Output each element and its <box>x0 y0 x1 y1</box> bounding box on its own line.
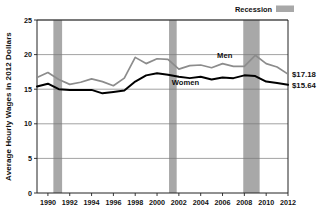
series-label-women: Women <box>172 78 200 87</box>
y-tick-label-10: 10 <box>24 119 32 128</box>
y-axis-title: Average Hourly Wages in 2012 Dollars <box>4 32 13 181</box>
y-tick-label-20: 20 <box>24 50 32 59</box>
series-label-men: Men <box>217 51 233 60</box>
y-tick-label-25: 25 <box>24 16 32 25</box>
x-tick-label-2000: 2000 <box>149 198 165 207</box>
x-tick-label-2002: 2002 <box>171 198 187 207</box>
wages-line-chart: 0510152025199019921994199619982000200220… <box>0 0 327 217</box>
x-tick-label-1990: 1990 <box>40 198 56 207</box>
legend-label-recession: Recession <box>235 5 272 14</box>
x-tick-label-1998: 1998 <box>127 198 143 207</box>
y-tick-label-15: 15 <box>24 85 32 94</box>
x-tick-label-2004: 2004 <box>193 198 209 207</box>
legend-swatch-recession <box>276 6 294 13</box>
end-label-women: $15.64 <box>292 81 317 90</box>
recession-band-2 <box>169 20 177 193</box>
y-tick-label-0: 0 <box>28 189 32 198</box>
x-tick-label-2006: 2006 <box>215 198 231 207</box>
x-tick-label-1994: 1994 <box>84 198 100 207</box>
end-label-men: $17.18 <box>292 70 317 79</box>
x-tick-label-2012: 2012 <box>280 198 296 207</box>
y-tick-label-5: 5 <box>28 154 32 163</box>
x-tick-label-2010: 2010 <box>258 198 274 207</box>
x-tick-label-1992: 1992 <box>62 198 78 207</box>
recession-band-3 <box>243 20 259 193</box>
chart-figure: 0510152025199019921994199619982000200220… <box>0 0 327 217</box>
x-tick-label-2008: 2008 <box>236 198 252 207</box>
recession-band-1 <box>53 20 62 193</box>
x-tick-label-1996: 1996 <box>105 198 121 207</box>
